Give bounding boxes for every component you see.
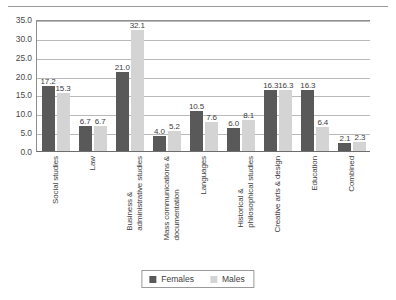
legend-item[interactable]: Males — [210, 274, 245, 284]
bar-females[interactable] — [264, 90, 277, 151]
bar-females[interactable] — [79, 126, 92, 151]
plot-area: 17.215.36.76.721.032.14.05.210.57.66.08.… — [36, 20, 370, 152]
bar-group — [190, 21, 218, 151]
top-divider — [8, 6, 388, 7]
category-label-line: Education — [310, 156, 319, 191]
legend-label: Males — [222, 274, 245, 284]
category-label-line: administrative studies — [134, 156, 144, 231]
category-label: Law — [88, 156, 98, 170]
y-axis-tick-label: 35.0 — [16, 15, 32, 25]
category-label-line: philosophical studies — [246, 156, 256, 228]
category-label: Creative arts & design — [273, 156, 283, 233]
y-axis-tick-label: 30.0 — [16, 34, 32, 44]
bar-males[interactable] — [205, 122, 218, 151]
bar-males[interactable] — [316, 127, 329, 151]
y-axis-tick-label: 20.0 — [16, 72, 32, 82]
bar-males[interactable] — [168, 131, 181, 151]
category-label-line: Languages — [199, 156, 208, 195]
category-label-line: documentation — [171, 156, 181, 241]
bar-group — [338, 21, 366, 151]
legend-label: Females — [161, 274, 194, 284]
bar-group — [153, 21, 181, 151]
bar-group — [264, 21, 292, 151]
category-label-line: Creative arts & design — [273, 156, 282, 233]
category-label-line: Combined — [347, 156, 356, 192]
category-label: Languages — [199, 156, 209, 195]
bar-chart-figure: 35.030.025.020.015.010.05.00.0 17.215.36… — [0, 12, 396, 300]
bar-females[interactable] — [190, 111, 203, 151]
category-label-line: Law — [88, 156, 97, 170]
bar-males[interactable] — [242, 120, 255, 151]
bar-females[interactable] — [227, 128, 240, 151]
category-label: Business &administrative studies — [125, 156, 144, 231]
category-axis: Social studiesLawBusiness &administrativ… — [36, 154, 370, 264]
bar-group — [301, 21, 329, 151]
bar-females[interactable] — [301, 90, 314, 151]
bar-group — [42, 21, 70, 151]
category-label: Mass communications &documentation — [162, 156, 181, 241]
bar-females[interactable] — [338, 143, 351, 151]
category-label: Combined — [347, 156, 357, 192]
y-axis-tick-label: 10.0 — [16, 109, 32, 119]
bar-males[interactable] — [131, 30, 144, 151]
bar-females[interactable] — [116, 72, 129, 151]
bar-group — [227, 21, 255, 151]
category-label-line: Social studies — [51, 156, 60, 204]
legend-swatch-icon — [149, 276, 156, 283]
category-label: Historical &philosophical studies — [236, 156, 255, 228]
bar-females[interactable] — [153, 136, 166, 151]
legend-swatch-icon — [210, 276, 217, 283]
category-label: Social studies — [51, 156, 61, 204]
bars-layer: 17.215.36.76.721.032.14.05.210.57.66.08.… — [37, 21, 370, 151]
y-axis-tick-label: 25.0 — [16, 53, 32, 63]
y-axis-tick-label: 5.0 — [20, 128, 32, 138]
bar-males[interactable] — [279, 90, 292, 151]
bar-males[interactable] — [94, 126, 107, 151]
category-label: Education — [310, 156, 320, 191]
legend-item[interactable]: Females — [149, 274, 194, 284]
category-label-line: Mass communications & — [162, 156, 171, 241]
chart-legend: FemalesMales — [141, 270, 254, 288]
y-axis-tick-label: 0.0 — [20, 147, 32, 157]
bar-females[interactable] — [42, 86, 55, 151]
category-label-line: Historical & — [236, 188, 245, 227]
bar-males[interactable] — [353, 142, 366, 151]
bar-group — [116, 21, 144, 151]
bar-males[interactable] — [57, 93, 70, 151]
y-axis-tick-label: 15.0 — [16, 90, 32, 100]
category-label-line: Business & — [125, 192, 134, 231]
y-axis: 35.030.025.020.015.010.05.00.0 — [0, 20, 34, 152]
bar-group — [79, 21, 107, 151]
